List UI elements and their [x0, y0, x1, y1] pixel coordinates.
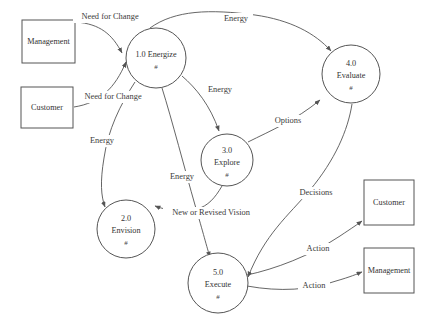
flow-label-text: Energy	[208, 85, 233, 94]
flow-label-text: Options	[275, 116, 302, 125]
process-label-1: 1.0 Energize	[135, 50, 177, 59]
flow-label-options: Options	[269, 115, 307, 127]
flow-label-energy-p1-p2: Energy	[85, 135, 119, 147]
flow-label-text: Need for Change	[84, 92, 141, 101]
process-marker-1: #	[154, 63, 158, 71]
flow-label-decisions: Decisions	[294, 187, 338, 199]
flow-line-need-for-change-management	[76, 22, 122, 53]
process-marker-5: #	[216, 293, 220, 301]
entity-label-management-left: Management	[27, 37, 70, 46]
flow-label-energy-p1-p5: Energy	[165, 171, 199, 183]
entity-label-customer-left: Customer	[31, 103, 63, 112]
process-4-evaluate[interactable]: 4.0 Evaluate #	[322, 45, 380, 103]
dfd-canvas: Management Customer Customer Management …	[0, 0, 437, 323]
flow-label-text: Energy	[90, 136, 115, 145]
process-marker-2: #	[124, 239, 128, 247]
entity-label-customer-right: Customer	[373, 198, 405, 207]
flow-label-text: Energy	[224, 14, 249, 23]
flow-label-energy-p1-p3: Energy	[203, 84, 237, 96]
flow-label-text: Energy	[170, 172, 195, 181]
process-number-3: 3.0	[222, 146, 232, 155]
process-5-execute[interactable]: 5.0 Execute #	[188, 253, 248, 313]
process-name-5: Execute	[205, 280, 232, 289]
external-entity-management-right[interactable]: Management	[364, 248, 414, 293]
flow-label-need-for-change-management: Need for Change	[73, 11, 147, 23]
external-entity-management-left[interactable]: Management	[22, 20, 75, 63]
external-entity-customer-left[interactable]: Customer	[21, 87, 73, 128]
flow-label-text: Action	[303, 281, 327, 290]
flow-label-need-for-change-customer: Need for Change	[76, 91, 150, 103]
process-marker-3: #	[225, 171, 229, 179]
process-1-energize[interactable]: 1.0 Energize #	[126, 28, 186, 88]
process-name-3: Explore	[214, 158, 240, 167]
flow-label-new-or-revised-vision: New or Revised Vision	[163, 207, 259, 219]
flow-label-action-management: Action	[298, 280, 330, 292]
flow-label-energy-p1-p4: Energy	[219, 13, 253, 25]
process-name-2: Envision	[111, 226, 140, 235]
flow-label-text: Need for Change	[81, 12, 138, 21]
dfd-svg: Management Customer Customer Management …	[0, 0, 437, 323]
process-2-envision[interactable]: 2.0 Envision #	[97, 200, 155, 258]
entity-label-management-right: Management	[368, 266, 411, 275]
external-entity-customer-right[interactable]: Customer	[364, 180, 414, 225]
process-number-4: 4.0	[346, 59, 356, 68]
processes-group: 1.0 Energize # 2.0 Envision # 3.0 Explor…	[97, 28, 380, 313]
process-number-5: 5.0	[213, 268, 223, 277]
flow-label-text: New or Revised Vision	[172, 208, 251, 217]
process-marker-4: #	[349, 84, 353, 92]
flow-line-new-or-revised-vision-p3-p2	[155, 186, 222, 210]
flow-label-text: Decisions	[299, 188, 332, 197]
process-name-4: Evaluate	[337, 71, 366, 80]
process-number-2: 2.0	[121, 214, 131, 223]
process-3-explore[interactable]: 3.0 Explore #	[201, 134, 253, 186]
flow-label-text: Action	[307, 244, 331, 253]
flow-label-action-customer: Action	[302, 243, 334, 255]
